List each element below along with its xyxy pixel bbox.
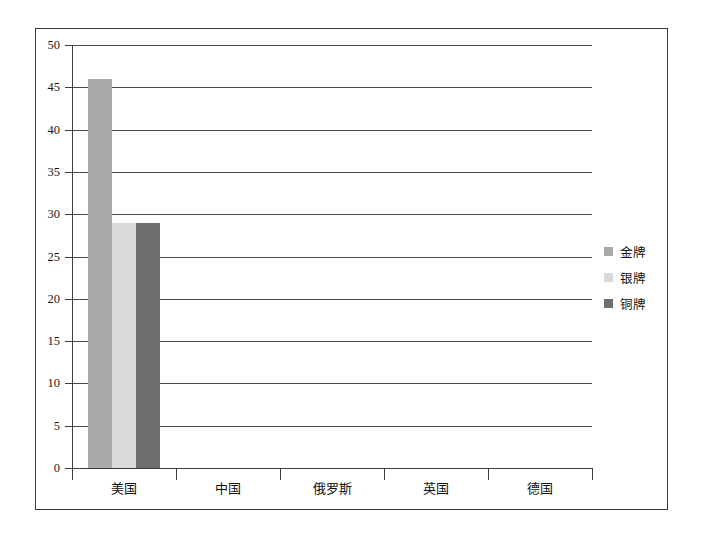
y-tick-label: 5	[0, 418, 60, 433]
y-tick-label: 15	[0, 334, 60, 349]
legend-item: 银牌	[604, 264, 646, 290]
y-tick-label: 30	[0, 207, 60, 222]
y-tick-label: 40	[0, 122, 60, 137]
legend-swatch-icon	[604, 299, 613, 308]
y-tick-mark	[65, 426, 72, 427]
y-tick-mark	[65, 130, 72, 131]
bar-金牌-美国	[88, 79, 112, 468]
legend-swatch-icon	[604, 273, 613, 282]
chart-screenshot: { "chart_data": { "type": "bar", "title"…	[0, 0, 705, 541]
chart-legend: 金牌银牌铜牌	[604, 238, 646, 316]
y-tick-label: 10	[0, 376, 60, 391]
y-tick-mark	[65, 468, 72, 469]
y-tick-label: 0	[0, 461, 60, 476]
legend-label: 铜牌	[620, 294, 646, 313]
y-tick-mark	[65, 257, 72, 258]
x-axis-line	[72, 468, 592, 469]
x-category-label: 俄罗斯	[280, 478, 384, 497]
y-tick-label: 20	[0, 291, 60, 306]
legend-item: 铜牌	[604, 290, 646, 316]
y-tick-label: 50	[0, 38, 60, 53]
y-tick-mark	[65, 45, 72, 46]
y-tick-mark	[65, 87, 72, 88]
x-category-label: 德国	[488, 478, 592, 497]
y-tick-mark	[65, 214, 72, 215]
bar-银牌-美国	[112, 223, 136, 468]
y-tick-label: 45	[0, 80, 60, 95]
y-tick-mark	[65, 341, 72, 342]
x-category-label: 中国	[176, 478, 280, 497]
y-tick-mark	[65, 299, 72, 300]
legend-label: 金牌	[620, 242, 646, 261]
x-category-label: 美国	[72, 478, 176, 497]
legend-item: 金牌	[604, 238, 646, 264]
y-tick-mark	[65, 383, 72, 384]
legend-label: 银牌	[620, 268, 646, 287]
y-tick-label: 35	[0, 164, 60, 179]
bars-layer	[72, 45, 592, 468]
y-tick-label: 25	[0, 249, 60, 264]
bar-铜牌-美国	[136, 223, 160, 468]
x-category-label: 英国	[384, 478, 488, 497]
x-axis-tick	[592, 468, 593, 480]
legend-swatch-icon	[604, 247, 613, 256]
y-tick-mark	[65, 172, 72, 173]
